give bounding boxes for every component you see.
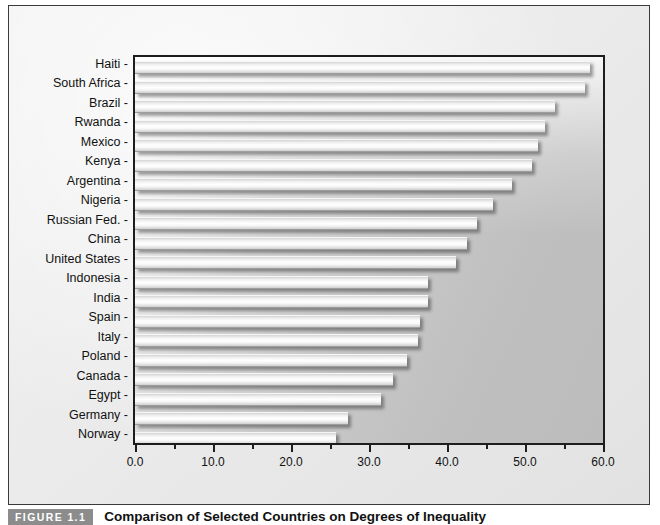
bar [135,81,585,94]
y-axis-tick-label: Canada - [77,370,128,382]
bar [135,100,555,113]
x-axis-tick-label: 20.0 [279,455,302,469]
x-axis-minor-tick [174,445,176,449]
x-axis-minor-tick [330,445,332,449]
y-axis-tick-label: Italy - [97,331,128,343]
y-axis-tick-label: Spain - [88,311,128,323]
bar [135,412,348,425]
bar [135,295,428,308]
y-axis-tick-label: United States - [45,253,128,265]
y-axis-tick-label: Germany - [69,409,128,421]
x-axis-major-tick [603,445,605,452]
y-axis-tick-label: Egypt - [88,389,128,401]
bar-series [135,57,603,443]
bar [135,315,420,328]
x-axis-tick-label: 0.0 [127,455,144,469]
y-axis-tick-label: Nigeria - [81,194,128,206]
x-axis-minor-tick [564,445,566,449]
bar [135,276,428,289]
bar [135,354,407,367]
y-axis-tick-label: Haiti - [95,58,128,70]
bar [135,373,393,386]
x-axis-tick-label: 40.0 [435,455,458,469]
figure-caption-text: Comparison of Selected Countries on Degr… [104,509,486,524]
bar [135,120,545,133]
bar [135,159,532,172]
plot-area [133,55,605,445]
bar [135,334,418,347]
x-axis-tick-label: 50.0 [513,455,536,469]
y-axis-tick-label: Indonesia - [66,272,128,284]
y-axis-tick-label: Norway - [78,428,128,440]
x-axis-tick-label: 30.0 [357,455,380,469]
x-axis-major-tick [135,445,137,452]
x-axis-major-tick [369,445,371,452]
bar [135,393,381,406]
y-axis-tick-label: India - [93,292,128,304]
bar [135,237,467,250]
bar [135,217,477,230]
figure-number-label: FIGURE 1.1 [8,509,93,525]
figure-root: Haiti -South Africa -Brazil -Rwanda -Mex… [0,0,660,525]
y-axis-tick-label: Kenya - [85,155,128,167]
y-axis-tick-label: Argentina - [67,175,128,187]
x-axis-major-tick [213,445,215,452]
bar [135,61,590,74]
bar [135,139,538,152]
y-axis-labels: Haiti -South Africa -Brazil -Rwanda -Mex… [0,55,133,445]
x-axis: 0.010.020.030.040.050.060.0 [133,445,605,485]
x-axis-minor-tick [486,445,488,449]
x-axis-tick-label: 60.0 [591,455,614,469]
y-axis-tick-label: Poland - [81,350,128,362]
x-axis-major-tick [291,445,293,452]
bar [135,432,336,445]
y-axis-tick-label: Mexico - [81,136,128,148]
bar [135,256,456,269]
y-axis-tick-label: Rwanda - [75,116,129,128]
y-axis-tick-label: Russian Fed. - [47,214,128,226]
x-axis-minor-tick [252,445,254,449]
x-axis-minor-tick [408,445,410,449]
bar [135,198,493,211]
y-axis-tick-label: China - [88,233,128,245]
bar [135,178,512,191]
figure-caption-row: FIGURE 1.1 Comparison of Selected Countr… [8,509,650,525]
x-axis-major-tick [447,445,449,452]
x-axis-major-tick [525,445,527,452]
x-axis-tick-label: 10.0 [201,455,224,469]
y-axis-tick-label: South Africa - [53,77,128,89]
y-axis-tick-label: Brazil - [89,97,128,109]
